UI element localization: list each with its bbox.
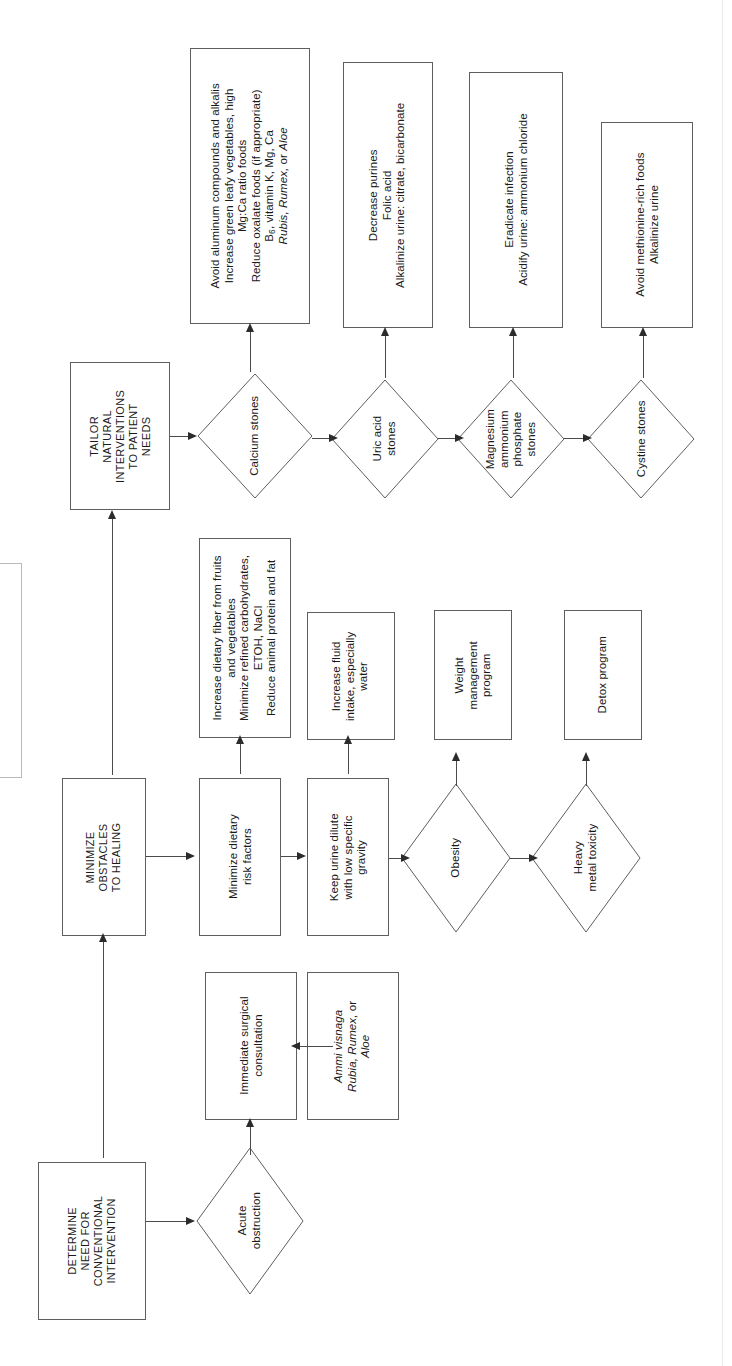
decision-calcium-stones-label: Calcium stones: [248, 396, 262, 476]
decision-heavy-metal-toxicity[interactable]: Heavy metal toxicity: [530, 782, 642, 934]
action-minimize-dietary-risk-label: Minimize dietary risk factors: [226, 815, 253, 900]
connector-surgical-to-ammi: [297, 1046, 333, 1047]
decision-calcium-stones[interactable]: Calcium stones: [196, 372, 314, 500]
action-dietary-detail[interactable]: Increase dietary fiber from fruits and v…: [199, 538, 291, 738]
action-ammi-visnaga-herbs-label: Ammi visnaga Rubia, Rumex, or Aloe: [333, 1000, 374, 1091]
stage-minimize-obstacles-label: MINIMIZE OBSTACLES TO HEALING: [85, 822, 124, 891]
arrowhead-urine-to-obesity: [401, 854, 410, 862]
stage-determine-need-label: DETERMINE NEED FOR CONVENTIONAL INTERVEN…: [66, 1196, 118, 1286]
scan-edge-right: [722, 0, 723, 1366]
action-increase-fluid-intake[interactable]: Increase fluid intake, especially water: [307, 612, 395, 740]
action-cystine-stone-treatment-label: Avoid methionine-rich foods Alkalinize u…: [633, 153, 660, 297]
action-keep-urine-dilute-label: Keep urine dilute with low specific grav…: [328, 813, 369, 901]
action-uric-acid-treatment[interactable]: Decrease purines Folic acid Alkalinize u…: [343, 62, 433, 328]
decision-obesity-label: Obesity: [449, 838, 463, 878]
arrowhead-determine-to-acute: [186, 1217, 195, 1225]
action-detox-program-label: Detox program: [596, 636, 610, 713]
connector-map-to-treatment: [513, 334, 514, 378]
action-increase-fluid-intake-label: Increase fluid intake, especially water: [331, 631, 372, 720]
arrowhead-calcium-to-uric: [329, 434, 338, 442]
decision-acute-obstruction[interactable]: Acute obstruction: [195, 1146, 305, 1296]
connector-cystine-to-treatment: [643, 334, 644, 378]
decision-cystine-stones-label: Cystine stones: [634, 401, 648, 478]
action-calcium-stone-treatment-label: Avoid aluminum compounds and alkalis Inc…: [209, 83, 291, 288]
decision-acute-obstruction-label: Acute obstruction: [236, 1192, 263, 1249]
arrowhead-uric-to-map: [455, 434, 464, 442]
action-map-stone-treatment-label: Eradicate infection Acidify urine: ammon…: [502, 114, 529, 287]
arrowhead-cystine-to-treatment: [639, 327, 647, 336]
action-weight-management-program-label: Weight management program: [453, 641, 494, 709]
arrowhead-calcium-to-treatment: [246, 323, 254, 332]
stage-tailor-interventions[interactable]: TAILOR NATURAL INTERVENTIONS TO PATIENT …: [70, 362, 170, 510]
decision-heavy-metal-toxicity-label: Heavy metal toxicity: [572, 824, 599, 892]
arrowhead-minimize-to-dietary: [186, 852, 195, 860]
arrowhead-uric-to-treatment: [381, 327, 389, 336]
decision-obesity[interactable]: Obesity: [400, 782, 512, 934]
stage-tailor-interventions-label: TAILOR NATURAL INTERVENTIONS TO PATIENT …: [88, 390, 153, 483]
action-detox-program[interactable]: Detox program: [564, 610, 642, 740]
arrowhead-tailor-to-calcium: [188, 432, 197, 440]
arrowhead-dietary-to-detail: [236, 735, 244, 744]
arrowhead-map-to-cystine: [583, 434, 592, 442]
action-cystine-stone-treatment[interactable]: Avoid methionine-rich foods Alkalinize u…: [601, 122, 693, 328]
arrowhead-obesity-to-weight: [452, 752, 460, 761]
action-surgical-consultation-label: Immediate surgical consultation: [237, 997, 264, 1095]
action-keep-urine-dilute[interactable]: Keep urine dilute with low specific grav…: [307, 778, 389, 936]
decision-uric-acid-stones-label: Uric acid stones: [371, 416, 398, 462]
stage-minimize-obstacles[interactable]: MINIMIZE OBSTACLES TO HEALING: [62, 778, 146, 936]
arrowhead-acute-to-surgical: [246, 1118, 254, 1127]
connector-minimize-to-dietary: [146, 856, 186, 857]
connector-calcium-to-treatment: [250, 330, 251, 372]
connector-determine-to-minimize: [103, 940, 104, 1158]
action-weight-management-program[interactable]: Weight management program: [434, 610, 512, 740]
arrowhead-heavy-metal-to-detox: [582, 752, 590, 761]
arrowhead-surgical-to-ammi: [291, 1042, 300, 1050]
action-dietary-detail-label: Increase dietary fiber from fruits and v…: [211, 555, 279, 721]
arrowhead-obesity-to-heavy-metal: [529, 854, 538, 862]
partial-offscreen-box: [0, 563, 22, 778]
arrowhead-determine-to-minimize: [99, 933, 107, 942]
action-minimize-dietary-risk[interactable]: Minimize dietary risk factors: [199, 778, 281, 936]
action-surgical-consultation[interactable]: Immediate surgical consultation: [205, 972, 297, 1120]
connector-dietary-to-detail: [240, 742, 241, 774]
arrowhead-minimize-to-tailor: [108, 510, 116, 519]
action-map-stone-treatment[interactable]: Eradicate infection Acidify urine: ammon…: [469, 72, 563, 328]
arrowhead-map-to-treatment: [509, 327, 517, 336]
connector-acute-to-surgical: [250, 1125, 251, 1155]
connector-determine-to-acute: [146, 1221, 186, 1222]
connector-urine-to-fluid: [348, 742, 349, 774]
connector-heavy-metal-to-detox: [586, 760, 587, 786]
decision-cystine-stones[interactable]: Cystine stones: [586, 378, 696, 500]
action-calcium-stone-treatment[interactable]: Avoid aluminum compounds and alkalis Inc…: [190, 48, 310, 324]
arrowhead-dietary-to-urine: [297, 852, 306, 860]
flowchart-canvas: DETERMINE NEED FOR CONVENTIONAL INTERVEN…: [0, 0, 732, 1366]
decision-map-stones[interactable]: Magnesium ammonium phosphate stones: [456, 378, 566, 500]
stage-determine-need[interactable]: DETERMINE NEED FOR CONVENTIONAL INTERVEN…: [38, 1162, 146, 1320]
decision-uric-acid-stones[interactable]: Uric acid stones: [330, 378, 440, 500]
arrowhead-urine-to-fluid: [344, 735, 352, 744]
connector-minimize-to-tailor: [112, 517, 113, 775]
connector-obesity-to-weight: [456, 760, 457, 786]
connector-uric-to-treatment: [385, 334, 386, 378]
action-uric-acid-treatment-label: Decrease purines Folic acid Alkalinize u…: [368, 102, 409, 287]
decision-map-stones-label: Magnesium ammonium phosphate stones: [484, 409, 538, 469]
